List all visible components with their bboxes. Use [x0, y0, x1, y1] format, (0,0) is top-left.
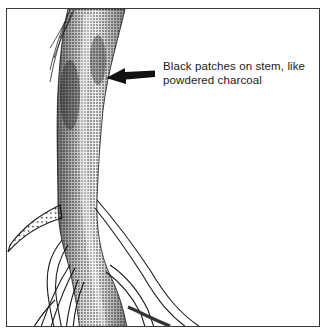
annotation-line-1: Black patches on stem, like [163, 60, 305, 74]
annotation-label: Black patches on stem, like powdered cha… [163, 60, 305, 87]
annotation-line-2: powdered charcoal [163, 74, 305, 88]
stem [57, 9, 128, 333]
illustration-figure: Black patches on stem, like powdered cha… [0, 0, 322, 333]
stem-root-drawing [0, 0, 322, 333]
arrow-icon [106, 68, 155, 84]
